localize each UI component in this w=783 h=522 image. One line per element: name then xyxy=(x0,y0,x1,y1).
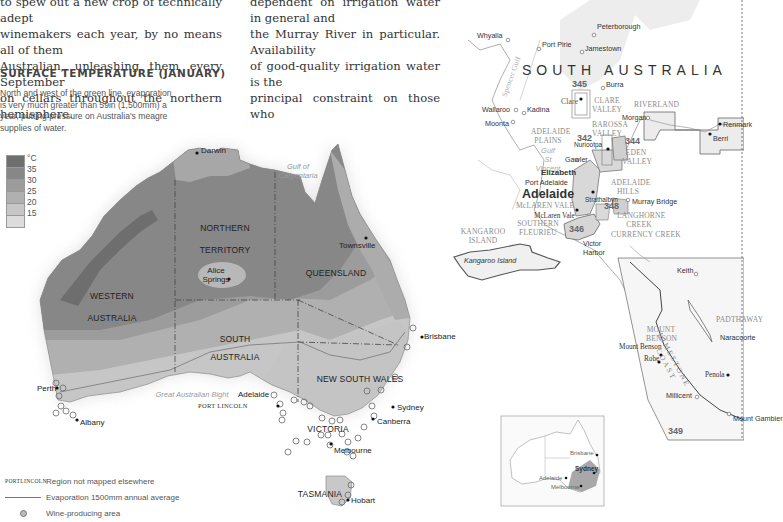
page-ref-349: 349 xyxy=(668,426,683,436)
region-adelaide-hills: ADELAIDE HILLS xyxy=(611,178,645,196)
town-murray-bridge: Murray Bridge xyxy=(632,197,677,206)
region-southern-fleurieu: SOUTHERN FLEURIEU xyxy=(517,219,559,237)
region-label-line: SOUTHERN xyxy=(517,219,559,228)
city-alice-springs: Alice Springs xyxy=(202,266,230,284)
town-wallaroo: Wallaroo xyxy=(482,105,510,114)
region-label-line: ADELAIDE xyxy=(531,127,565,136)
region-riverland: RIVERLAND xyxy=(634,100,679,109)
city-label-line: Alice xyxy=(202,266,230,275)
region-label-line: VALLEY xyxy=(592,129,622,138)
page-ref-345: 345 xyxy=(572,79,587,89)
legend-label: Wine-producing area xyxy=(46,509,120,518)
region-label-line: ADELAIDE xyxy=(611,178,645,187)
city-darwin: Darwin xyxy=(201,146,226,155)
region-label-line: EDEN xyxy=(622,148,650,157)
sa-map-title: SOUTH AUSTRALIA xyxy=(522,62,727,78)
region-label-line: BAROSSA xyxy=(592,120,622,129)
sea-label-line: Gulf xyxy=(535,146,561,155)
town-label-line: Harbor xyxy=(583,248,605,257)
region-label-line: KANGAROO xyxy=(460,227,506,236)
region-label-line: HILLS xyxy=(611,187,645,196)
state-queensland: QUEENSLAND xyxy=(296,262,376,284)
town-port-pirie: Port Pirie xyxy=(542,40,572,49)
key-line: LINCOLN xyxy=(20,478,47,484)
wine-area-circle-icon xyxy=(6,510,46,517)
town-kangaroo-island: Kangaroo Island xyxy=(464,256,516,265)
town-millicent: Millicent xyxy=(666,391,692,400)
legend-row-region-not-mapped: PORT LINCOLN Region not mapped elsewhere xyxy=(6,473,179,489)
page-ref-348: 348 xyxy=(604,201,619,211)
town-whyalla: Whyalla xyxy=(477,31,503,40)
region-label-line: PLAINS xyxy=(531,136,565,145)
state-western-australia: WESTERN AUSTRALIA xyxy=(72,285,152,329)
city-townsville: Townsville xyxy=(339,241,375,250)
city-melbourne: Melbourne xyxy=(334,446,372,455)
state-label-line: AUSTRALIA xyxy=(205,348,265,366)
city-sydney: Sydney xyxy=(397,403,424,412)
map-legend: PORT LINCOLN Region not mapped elsewhere… xyxy=(6,473,179,521)
region-langhorne-creek: LANGHORNE CREEK xyxy=(617,211,661,229)
town-gawler: Gawler xyxy=(565,155,588,164)
region-label-line: VALLEY xyxy=(592,105,622,114)
region-currency-creek: CURRENCY CREEK xyxy=(611,230,681,239)
region-kangaroo-island: KANGAROO ISLAND xyxy=(460,227,506,245)
town-mount-gambier: Mount Gambier xyxy=(733,414,783,423)
sea-great-australian-bight: Great Australian Bight xyxy=(152,390,232,399)
city-adelaide: Adelaide xyxy=(238,390,269,399)
town-penola: Penola xyxy=(705,371,725,379)
sea-gulf-of-carpentaria: Gulf of Carpentaria xyxy=(268,162,328,180)
town-victor-harbor: Victor Harbor xyxy=(583,239,605,257)
town-clare: Clare xyxy=(561,97,578,106)
inset-sydney: Sydney xyxy=(575,465,598,472)
town-elizabeth: Elizabeth xyxy=(541,168,576,177)
region-adelaide-plains: ADELAIDE PLAINS xyxy=(531,127,565,145)
town-peterborough: Peterborough xyxy=(597,22,641,31)
state-label-line: TERRITORY xyxy=(190,239,260,261)
page-ref-346: 346 xyxy=(569,224,584,234)
city-albany: Albany xyxy=(80,418,104,427)
city-canberra: Canberra xyxy=(377,417,410,426)
state-new-south-wales: NEW SOUTH WALES xyxy=(312,368,408,390)
town-jamestown: Jamestown xyxy=(585,44,621,53)
region-eden-valley: EDEN VALLEY xyxy=(622,148,650,166)
legend-row-wine-area: Wine-producing area xyxy=(6,505,179,521)
town-label-line: Victor xyxy=(583,239,605,248)
port-lincoln-key: PORT LINCOLN xyxy=(6,478,46,484)
state-northern-territory: NORTHERN TERRITORY xyxy=(190,217,260,261)
city-perth: Perth xyxy=(37,384,56,393)
page-ref-344: 344 xyxy=(625,136,640,146)
town-kadina: Kadina xyxy=(527,105,549,114)
city-label-line: Springs xyxy=(202,275,230,284)
inset-melbourne: Melbourne xyxy=(551,484,579,490)
state-tasmania: TASMANIA xyxy=(290,483,350,505)
town-port-adelaide: Port Adelaide xyxy=(525,178,568,187)
sea-label-line: St xyxy=(535,155,561,164)
state-label-line: NORTHERN xyxy=(190,217,260,239)
sea-label-line: Carpentaria xyxy=(268,171,328,180)
region-label-line: ISLAND xyxy=(460,236,506,245)
sea-label-line: Gulf of xyxy=(268,162,328,171)
state-south-australia: SOUTH AUSTRALIA xyxy=(205,330,265,366)
state-label-line: AUSTRALIA xyxy=(72,307,152,329)
label-port-lincoln: PORT LINCOLN xyxy=(198,403,248,409)
region-label-line: CREEK xyxy=(617,220,661,229)
region-mount-benson: MOUNT BENSON xyxy=(646,325,676,343)
region-label-line: LANGHORNE xyxy=(617,211,661,220)
region-label-line: MOUNT xyxy=(646,325,676,334)
town-burra: Burra xyxy=(606,80,624,89)
town-naracoorte: Naracoorte xyxy=(720,333,756,342)
town-berri: Berri xyxy=(713,134,728,143)
town-mount-benson: Mount Benson xyxy=(619,343,662,351)
city-hobart: Hobart xyxy=(351,496,375,505)
town-keith: Keith xyxy=(677,266,693,275)
legend-row-evaporation: Evaporation 1500mm annual average xyxy=(6,489,179,505)
state-label-line: SOUTH xyxy=(205,330,265,348)
region-label-line: FLEURIEU xyxy=(517,228,559,237)
key-line: PORT xyxy=(5,478,20,484)
region-label-line: CLARE xyxy=(592,96,622,105)
town-renmark: Renmark xyxy=(723,120,752,129)
region-mclaren-vale: McLAREN VALE xyxy=(516,201,574,210)
region-barossa-valley: BAROSSA VALLEY xyxy=(592,120,622,138)
state-label-line: WESTERN xyxy=(72,285,152,307)
